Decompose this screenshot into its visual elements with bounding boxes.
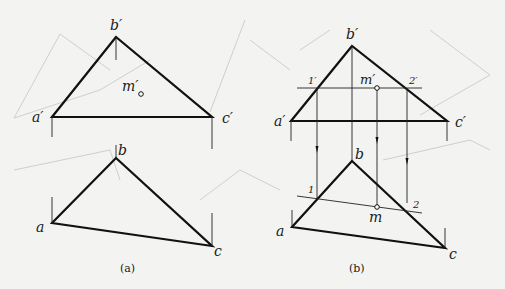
auxiliary-line-top — [297, 196, 422, 213]
label-m-prime: m′ — [122, 78, 139, 94]
label-a-prime: a′ — [32, 109, 44, 125]
arrow-down-icon — [406, 158, 409, 165]
label-a: a — [276, 223, 284, 239]
label-m: m — [369, 209, 382, 225]
label-c: c — [449, 246, 457, 262]
label-b: b — [118, 142, 127, 158]
label-a: a — [36, 219, 44, 235]
label-b: b — [355, 146, 364, 162]
point-m-front — [139, 92, 144, 97]
label-b-prime: b′ — [110, 17, 123, 33]
arrow-down-icon — [316, 146, 319, 153]
label-1: 1 — [308, 184, 314, 195]
background-ghost-lines — [14, 20, 490, 200]
triangle-front-projection — [52, 37, 212, 117]
caption-a: (a) — [120, 262, 135, 275]
label-1-prime: 1′ — [308, 75, 317, 86]
arrow-down-icon — [376, 137, 379, 144]
label-b-prime: b′ — [346, 26, 359, 42]
projection-diagram: b′ a′ c′ m′ b a c (a) b′ a′ c′ m′ — [0, 0, 505, 289]
panel-b-top-view: b a c m 1 2 — [276, 146, 457, 262]
panel-a-front-view: b′ a′ c′ m′ — [32, 17, 234, 149]
caption-b: (b) — [349, 262, 365, 275]
point-m-front — [375, 86, 380, 91]
label-c: c — [214, 243, 222, 259]
projection-connectors — [316, 46, 409, 206]
label-2-prime: 2′ — [408, 75, 418, 86]
label-c-prime: c′ — [222, 110, 234, 126]
panel-a: b′ a′ c′ m′ b a c (a) — [32, 17, 234, 275]
panel-b-front-view: b′ a′ c′ m′ 1′ 2′ — [274, 26, 467, 141]
triangle-top-projection — [52, 158, 212, 246]
triangle-top-projection — [292, 161, 445, 248]
label-m-prime: m′ — [360, 72, 375, 87]
panel-b: b′ a′ c′ m′ 1′ 2′ b a c m — [274, 26, 467, 275]
label-2: 2 — [412, 199, 419, 210]
label-c-prime: c′ — [455, 114, 467, 130]
label-a-prime: a′ — [274, 113, 286, 129]
